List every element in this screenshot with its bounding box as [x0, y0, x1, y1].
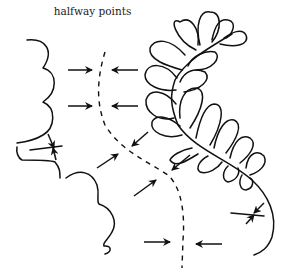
arrow-small-up-left	[53, 148, 56, 160]
arrow-small-up-right	[246, 215, 254, 224]
arrow-diag-3	[134, 180, 156, 196]
left-scallop-line	[17, 40, 54, 143]
feather-spine	[172, 34, 274, 255]
arrow-small-down-left	[48, 134, 54, 148]
arrow-small-down-right	[254, 203, 264, 213]
arrow-diag-2	[132, 132, 148, 146]
arrow-diag-4	[172, 155, 190, 170]
tick-line-left	[30, 146, 62, 150]
quilt-diagram	[0, 0, 289, 272]
arrow-diag-1	[97, 154, 118, 168]
middle-scallop-line	[66, 172, 114, 254]
arrows	[30, 70, 264, 244]
tick-line-right	[231, 213, 264, 216]
feather-plumes	[145, 12, 265, 190]
